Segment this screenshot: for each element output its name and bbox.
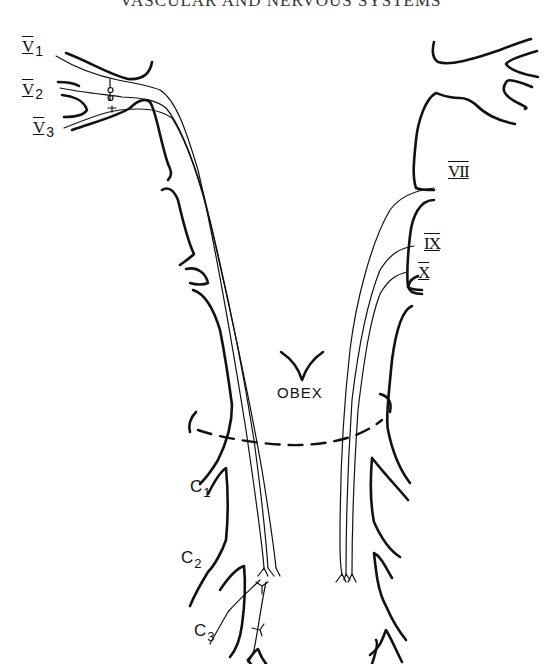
obex-mark — [281, 352, 323, 380]
cord-cut-edge — [248, 640, 377, 664]
label-ix: IX — [424, 235, 440, 252]
label-v1-sub: 1 — [35, 44, 42, 58]
label-ix-numeral: IX — [424, 234, 440, 253]
left-trigeminal-fibers — [56, 56, 280, 662]
label-obex: OBEX — [277, 384, 323, 401]
label-v3-sub: 3 — [46, 125, 53, 139]
label-v2-numeral: V — [22, 80, 33, 99]
label-c2-sub: 2 — [194, 556, 201, 571]
label-vii-numeral: VII — [448, 162, 469, 181]
brainstem-diagram — [0, 0, 559, 664]
label-c1-letter: C — [190, 477, 202, 496]
label-v2-sub: 2 — [35, 87, 42, 101]
label-c1: C1 — [190, 478, 211, 499]
label-c3: C3 — [194, 622, 215, 643]
label-x: X — [418, 264, 429, 281]
label-v1-numeral: V — [22, 37, 33, 56]
label-c3-sub: 3 — [207, 629, 214, 644]
label-v1: V1 — [22, 38, 42, 58]
label-v3-numeral: V — [33, 118, 44, 137]
label-c2-letter: C — [181, 548, 193, 567]
right-cranial-fibers — [336, 188, 434, 582]
label-x-numeral: X — [418, 263, 429, 282]
label-v2: V2 — [22, 81, 42, 101]
label-vii: VII — [448, 163, 469, 180]
label-c1-sub: 1 — [203, 485, 210, 500]
label-c3-letter: C — [194, 621, 206, 640]
left-outline — [58, 53, 282, 664]
label-v3: V3 — [33, 119, 53, 139]
label-c2: C2 — [181, 549, 202, 570]
right-outline — [370, 39, 538, 662]
